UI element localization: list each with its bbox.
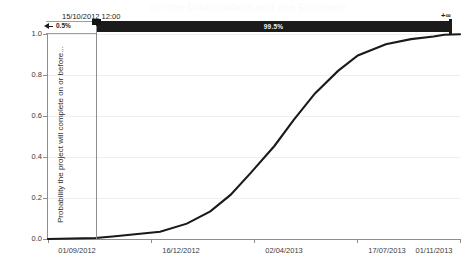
chart-canvas: on the Distribution and the Estimate 1.0… xyxy=(0,0,473,266)
confidence-left-band xyxy=(46,21,96,34)
confidence-right-percent: 99.5% xyxy=(96,21,451,32)
marker-vertical-line xyxy=(96,26,97,240)
confidence-left-percent: 0.5% xyxy=(56,22,71,29)
marker-date-label: 15/10/2012 12:00 xyxy=(62,12,120,21)
cdf-curve xyxy=(0,0,473,266)
confidence-bar-end-cap xyxy=(449,19,452,34)
infinity-bound-label: +∞ xyxy=(441,11,451,20)
confidence-bar: 99.5% xyxy=(96,21,451,32)
left-arrow-stem-icon xyxy=(48,26,53,27)
